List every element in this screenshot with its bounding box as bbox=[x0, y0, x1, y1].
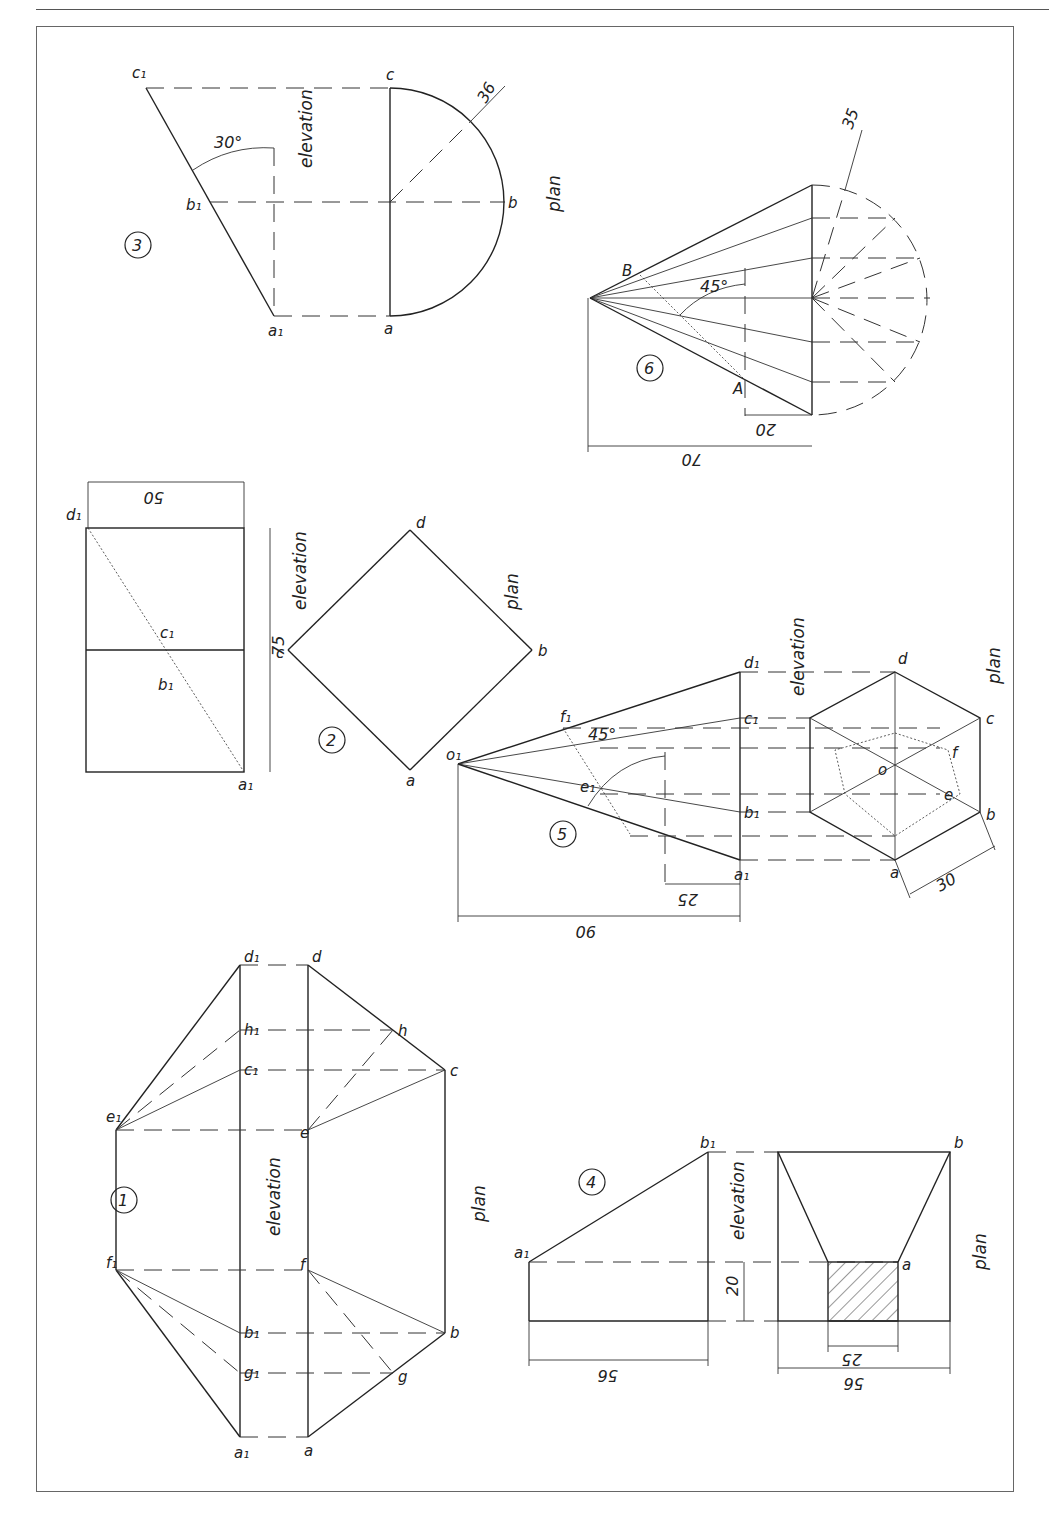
dim-45deg: 45° bbox=[588, 725, 616, 744]
label-b1: b₁ bbox=[158, 676, 174, 694]
label-a: a bbox=[384, 320, 393, 338]
label-e: e bbox=[944, 786, 953, 804]
label-d1: d₁ bbox=[66, 506, 82, 524]
label-c1: c₁ bbox=[132, 64, 146, 82]
label-c: c bbox=[986, 710, 995, 728]
dim-50: 50 bbox=[144, 488, 164, 507]
label-e1: e₁ bbox=[580, 778, 595, 796]
label-a1: a₁ bbox=[234, 1444, 249, 1462]
label-d1: d₁ bbox=[744, 654, 760, 672]
label-f1: f₁ bbox=[106, 1254, 117, 1272]
figure-number: 4 bbox=[586, 1173, 596, 1192]
dim-30: 30 bbox=[933, 869, 960, 896]
figure-3: c₁ b₁ a₁ c a b 30° 36 elevation plan 3 bbox=[125, 64, 564, 340]
elevation-label: elevation bbox=[296, 89, 316, 168]
elevation-label: elevation bbox=[728, 1161, 748, 1240]
dim-75: 75 bbox=[269, 636, 288, 656]
figure-number: 5 bbox=[557, 825, 567, 844]
elevation-label: elevation bbox=[264, 1157, 284, 1236]
dim-45deg: 45° bbox=[700, 277, 728, 296]
dim-20: 20 bbox=[723, 1276, 742, 1296]
label-c1: c₁ bbox=[244, 1061, 258, 1079]
dim-25: 25 bbox=[678, 890, 698, 909]
label-a: a bbox=[304, 1442, 313, 1460]
label-b: b bbox=[450, 1324, 460, 1342]
label-a1: a₁ bbox=[734, 866, 749, 884]
figure-number: 2 bbox=[326, 731, 336, 750]
dim-90: 90 bbox=[576, 922, 596, 941]
elevation-label: elevation bbox=[290, 531, 310, 610]
label-b: b bbox=[954, 1134, 964, 1152]
dim-30deg: 30° bbox=[214, 133, 242, 152]
label-c1: c₁ bbox=[744, 710, 758, 728]
label-h1: h₁ bbox=[244, 1021, 260, 1039]
label-a: a bbox=[902, 1256, 911, 1274]
label-o1: o₁ bbox=[446, 746, 461, 764]
label-h: h bbox=[398, 1022, 408, 1040]
plan-label: plan bbox=[544, 175, 564, 213]
label-g: g bbox=[398, 1368, 408, 1386]
figure-4: a₁ b₁ b a 20 56 25 56 elevation plan 4 bbox=[514, 1134, 990, 1393]
dim-35: 35 bbox=[838, 106, 863, 132]
figure-6: B A 45° 20 70 35 6 bbox=[588, 106, 930, 469]
dim-70: 70 bbox=[682, 450, 702, 469]
label-d1: d₁ bbox=[244, 948, 260, 966]
label-a: a bbox=[890, 864, 899, 882]
dim-20: 20 bbox=[756, 420, 776, 439]
dim-56-plan: 56 bbox=[844, 1374, 864, 1393]
label-f: f bbox=[952, 744, 960, 762]
label-e1: e₁ bbox=[106, 1108, 121, 1126]
figure-2: d₁ b₁ c₁ a₁ c a d b 50 75 elevation plan… bbox=[66, 482, 548, 794]
label-a1: a₁ bbox=[238, 776, 253, 794]
plan-label: plan bbox=[984, 647, 1004, 685]
plan-label: plan bbox=[970, 1233, 990, 1271]
label-a1: a₁ bbox=[514, 1244, 529, 1262]
dim-36: 36 bbox=[473, 79, 500, 106]
label-c: c bbox=[450, 1062, 459, 1080]
label-f1: f₁ bbox=[560, 708, 571, 726]
label-b: b bbox=[538, 642, 548, 660]
label-b1: b₁ bbox=[744, 804, 760, 822]
label-A: A bbox=[732, 380, 743, 398]
label-b1: b₁ bbox=[186, 196, 202, 214]
figure-number: 3 bbox=[132, 236, 142, 255]
plan-label: plan bbox=[502, 573, 522, 611]
label-b1: b₁ bbox=[700, 1134, 716, 1152]
elevation-label: elevation bbox=[788, 617, 808, 696]
label-f: f bbox=[300, 1256, 308, 1274]
plan-label: plan bbox=[469, 1185, 489, 1223]
label-B: B bbox=[622, 262, 632, 280]
figure-1: e₁ f₁ d₁ h₁ c₁ b₁ g₁ a₁ d h c e f b g a … bbox=[106, 948, 489, 1462]
label-c1: c₁ bbox=[160, 624, 174, 642]
figure-5: o₁ f₁ e₁ d₁ c₁ b₁ a₁ d c f o e b a 45° 2… bbox=[446, 617, 1004, 941]
label-g1: g₁ bbox=[244, 1364, 260, 1382]
label-d: d bbox=[898, 650, 908, 668]
label-e: e bbox=[300, 1124, 309, 1142]
label-a1: a₁ bbox=[268, 322, 283, 340]
label-a: a bbox=[406, 772, 415, 790]
label-c: c bbox=[386, 66, 395, 84]
hatched-section bbox=[828, 1262, 898, 1321]
dim-56-elevation: 56 bbox=[598, 1366, 618, 1385]
label-b: b bbox=[986, 806, 996, 824]
label-d: d bbox=[416, 514, 426, 532]
label-o: o bbox=[878, 761, 887, 779]
label-b: b bbox=[508, 194, 518, 212]
figure-number: 6 bbox=[644, 359, 654, 378]
dim-25: 25 bbox=[842, 1350, 862, 1369]
label-b1: b₁ bbox=[244, 1324, 260, 1342]
figure-number: 1 bbox=[118, 1191, 128, 1210]
technical-drawing-sheet: c₁ b₁ a₁ c a b 30° 36 elevation plan 3 bbox=[0, 0, 1049, 1514]
label-d: d bbox=[312, 948, 322, 966]
